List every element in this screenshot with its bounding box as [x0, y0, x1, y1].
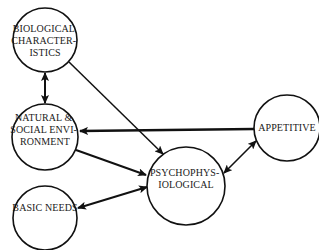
node-basic-needs[interactable]: BASIC NEEDS	[12, 186, 77, 250]
node-psychophysiological-label: PSYCHOPHYS- IOLOGICAL	[150, 167, 222, 190]
node-natural-social[interactable]: NATURAL & SOCIAL ENVI- RONMENT	[10, 104, 79, 170]
edge-natural-psychophysiological	[76, 150, 146, 175]
node-appetitive-label: APPETITIVE	[258, 122, 316, 133]
diagram-canvas: BIOLOGICAL CHARACTER- ISTICS NATURAL & S…	[0, 0, 319, 250]
node-natural-social-label: NATURAL & SOCIAL ENVI- RONMENT	[10, 112, 79, 147]
node-biological[interactable]: BIOLOGICAL CHARACTER- ISTICS	[11, 8, 79, 72]
edge-appetitive-natural	[80, 129, 254, 131]
edge-biological-psychophysiological	[69, 62, 163, 154]
node-appetitive[interactable]: APPETITIVE	[254, 95, 319, 161]
node-psychophysiological[interactable]: PSYCHOPHYS- IOLOGICAL	[147, 147, 225, 225]
node-basic-needs-label: BASIC NEEDS	[12, 202, 77, 213]
node-basic-needs-circle	[13, 186, 77, 250]
edge-psychophysiological-appetitive	[224, 141, 256, 173]
edge-basicneeds-psychophysiological	[78, 187, 147, 208]
